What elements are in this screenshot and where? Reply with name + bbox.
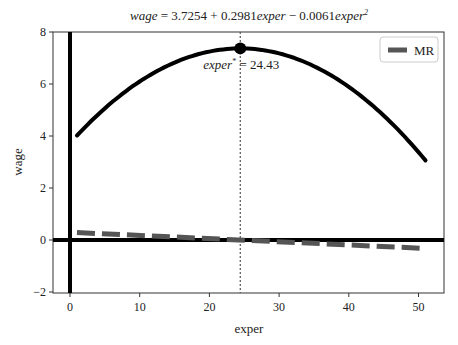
legend: MR [380, 37, 438, 62]
y-tick-label: 8 [40, 25, 46, 39]
x-tick-label: 20 [203, 300, 215, 314]
y-tick-label: 2 [40, 181, 46, 195]
optimum-annotation: exper* = 24.43 [203, 57, 279, 72]
y-tick-label: 4 [40, 129, 46, 143]
y-tick-label: 0 [40, 233, 46, 247]
optimum-marker [234, 42, 246, 54]
chart: wage = 3.7254 + 0.2981exper − 0.0061expe… [0, 0, 458, 345]
y-axis-label: wage [10, 148, 25, 176]
y-tick-label: −2 [33, 285, 46, 299]
x-tick-label: 50 [413, 300, 425, 314]
y-tick-label: 6 [40, 77, 46, 91]
x-tick-label: 0 [67, 300, 73, 314]
x-tick-label: 40 [343, 300, 355, 314]
chart-title: wage = 3.7254 + 0.2981exper − 0.0061expe… [130, 8, 368, 23]
legend-label-mr: MR [414, 43, 435, 58]
x-tick-label: 30 [273, 300, 285, 314]
x-axis-label: exper [235, 321, 265, 336]
x-tick-label: 10 [134, 300, 146, 314]
